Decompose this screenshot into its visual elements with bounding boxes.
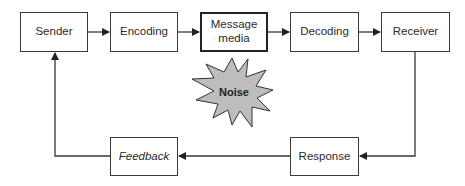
node-sender: Sender — [20, 12, 88, 52]
node-encoding: Encoding — [110, 12, 178, 52]
node-label: Sender — [35, 25, 72, 39]
node-label: Response — [299, 150, 351, 164]
node-message-media: Message media — [200, 12, 268, 52]
arrow-receiver-response — [360, 52, 415, 156]
node-feedback: Feedback — [110, 137, 178, 176]
node-label: Receiver — [393, 25, 438, 39]
node-decoding: Decoding — [290, 12, 359, 52]
node-label: Feedback — [119, 150, 170, 164]
node-response: Response — [290, 137, 359, 176]
noise-label: Noise — [214, 86, 254, 98]
arrow-feedback-sender — [55, 53, 110, 156]
node-label: Encoding — [120, 25, 168, 39]
node-label: Message media — [209, 18, 259, 46]
node-label: Decoding — [300, 25, 349, 39]
node-receiver: Receiver — [381, 12, 450, 52]
